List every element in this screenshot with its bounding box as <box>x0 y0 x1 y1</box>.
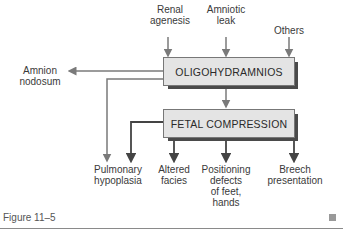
output-breech-presentation: Breech presentation <box>264 164 326 186</box>
output-label-line: Pulmonary <box>92 164 144 175</box>
input-renal-agenesis: Renal agenesis <box>150 4 190 26</box>
input-label-line: agenesis <box>150 15 190 26</box>
fetal-compression-box: FETAL COMPRESSION <box>163 109 295 138</box>
input-others: Others <box>270 25 308 36</box>
oligohydramnios-label: OLIGOHYDRAMNIOS <box>175 66 282 78</box>
input-label-line: Others <box>270 25 308 36</box>
output-label-line: Breech <box>264 164 326 175</box>
output-label-line: nodosum <box>18 76 62 87</box>
end-square-icon <box>329 214 336 221</box>
input-label-line: leak <box>204 15 248 26</box>
figure-caption: Figure 11–5 <box>3 212 56 223</box>
input-label-line: Renal <box>150 4 190 15</box>
output-pulmonary-hypoplasia: Pulmonary hypoplasia <box>92 164 144 186</box>
output-positioning-defects: Positioning defects of feet, hands <box>200 164 252 208</box>
output-label-line: facies <box>155 175 193 186</box>
output-label-line: hypoplasia <box>92 175 144 186</box>
output-label-line: of feet, <box>200 186 252 197</box>
output-amnion-nodosum: Amnion nodosum <box>18 65 62 87</box>
input-amniotic-leak: Amniotic leak <box>204 4 248 26</box>
output-altered-facies: Altered facies <box>155 164 193 186</box>
output-label-line: presentation <box>264 175 326 186</box>
caption-divider <box>0 228 343 229</box>
input-label-line: Amniotic <box>204 4 248 15</box>
oligohydramnios-box: OLIGOHYDRAMNIOS <box>163 57 295 86</box>
output-label-line: Altered <box>155 164 193 175</box>
fetal-compression-label: FETAL COMPRESSION <box>171 118 288 130</box>
output-label-line: defects <box>200 175 252 186</box>
output-label-line: Amnion <box>18 65 62 76</box>
output-label-line: hands <box>200 197 252 208</box>
output-label-line: Positioning <box>200 164 252 175</box>
